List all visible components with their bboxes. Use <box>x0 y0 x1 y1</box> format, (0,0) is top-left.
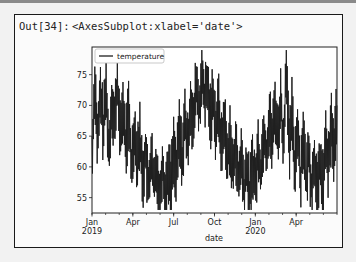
y-tick-label: 75 <box>77 71 87 80</box>
x-tick-label: Jan <box>248 218 261 227</box>
x-axis-label: date <box>205 234 223 243</box>
line-chart: 5560657075 Jan2019AprJulOctJan2020Apr da… <box>0 0 356 262</box>
x-tick-label: Oct <box>208 218 222 227</box>
y-tick-label: 70 <box>77 101 87 110</box>
x-tick-year-label: 2020 <box>245 227 265 236</box>
x-axis: Jan2019AprJulOctJan2020Apr <box>82 213 337 236</box>
legend-label-temperature: temperature <box>117 52 165 61</box>
legend: temperature <box>95 49 165 63</box>
y-tick-label: 55 <box>77 194 87 203</box>
x-tick-label: Apr <box>289 218 304 227</box>
x-tick-label: Jan <box>85 218 98 227</box>
y-tick-label: 60 <box>77 163 87 172</box>
x-tick-label: Apr <box>126 218 141 227</box>
x-tick-year-label: 2019 <box>82 227 102 236</box>
y-tick-label: 65 <box>77 132 87 141</box>
x-tick-label: Jul <box>168 218 179 227</box>
y-axis: 5560657075 <box>77 71 92 203</box>
